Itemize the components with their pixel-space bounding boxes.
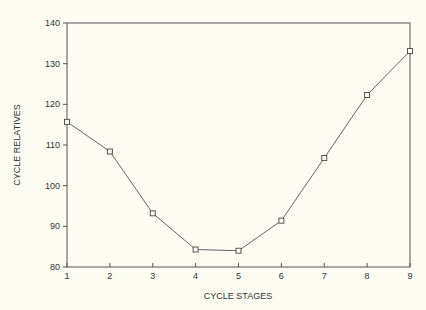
y-tick-label: 110 — [46, 140, 60, 150]
x-tick-label: 2 — [107, 271, 112, 281]
x-tick-label: 9 — [407, 271, 412, 281]
x-axis-title: CYCLE STAGES — [204, 291, 272, 301]
data-point-marker — [150, 211, 155, 216]
data-point-marker — [65, 119, 70, 124]
data-point-marker — [322, 156, 327, 161]
y-axis-title: CYCLE RELATIVES — [12, 104, 22, 185]
line-chart: 8090100110120130140 123456789 CYCLE STAG… — [0, 0, 426, 310]
x-tick-label: 5 — [236, 271, 241, 281]
y-tick-label: 80 — [50, 262, 60, 272]
y-axis-ticks: 8090100110120130140 — [45, 18, 67, 272]
data-point-marker — [107, 149, 112, 154]
x-axis-ticks: 123456789 — [64, 263, 412, 281]
plot-border — [67, 23, 410, 267]
y-tick-label: 120 — [45, 99, 60, 109]
data-point-marker — [193, 247, 198, 252]
y-tick-label: 90 — [50, 221, 60, 231]
x-tick-label: 8 — [365, 271, 370, 281]
data-point-marker — [365, 92, 370, 97]
y-tick-label: 140 — [45, 18, 60, 28]
data-series — [65, 49, 413, 254]
x-tick-label: 7 — [322, 271, 327, 281]
data-point-marker — [236, 248, 241, 253]
y-tick-label: 100 — [45, 181, 60, 191]
data-point-marker — [408, 49, 413, 54]
x-tick-label: 4 — [193, 271, 198, 281]
x-tick-label: 6 — [279, 271, 284, 281]
data-point-marker — [279, 218, 284, 223]
x-tick-label: 1 — [64, 271, 69, 281]
series-line — [67, 51, 410, 251]
y-tick-label: 130 — [45, 59, 60, 69]
plot-frame — [67, 23, 410, 267]
x-tick-label: 3 — [150, 271, 155, 281]
